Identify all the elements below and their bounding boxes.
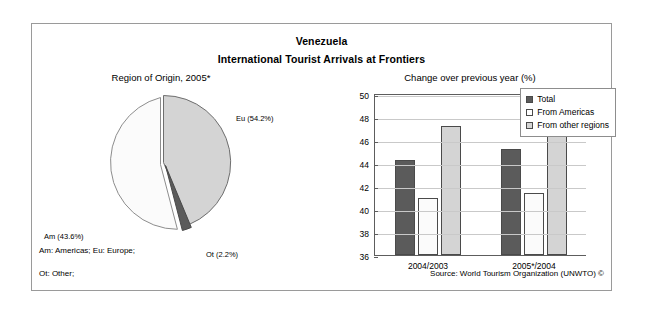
source-note: Source: World Tourism Organization (UNWT…: [430, 269, 604, 278]
bar-from-americas: [418, 198, 438, 256]
pie-chart-panel: Region of Origin, 2005* Eu (54.2%) Am (4…: [36, 72, 326, 262]
y-axis-tick-label: 48: [360, 115, 369, 124]
pie-slice-eu: [164, 95, 231, 224]
y-gridline: [375, 234, 586, 235]
y-gridline: [375, 165, 586, 166]
bar-from-americas: [524, 193, 544, 255]
y-axis-tick: [374, 211, 378, 212]
pie-chart-title: Region of Origin, 2005*: [36, 72, 286, 83]
legend-swatch-from-americas: [526, 109, 533, 116]
y-axis-tick: [374, 188, 378, 189]
figure-title-secondary: International Tourist Arrivals at Fronti…: [32, 53, 611, 65]
pie-label-eu: Eu (54.2%): [236, 114, 274, 123]
pie-svg: [92, 94, 232, 234]
legend-label-from-other-regions: From other regions: [537, 119, 609, 132]
y-axis-tick-label: 44: [360, 161, 369, 170]
bar-from-other-regions: [441, 126, 461, 255]
y-axis-tick-label: 36: [360, 253, 369, 262]
pie-label-ot: Ot (2.2%): [206, 250, 238, 259]
footnote-other: Ot: Other;: [39, 269, 74, 278]
y-gridline: [375, 188, 586, 189]
y-gridline: [375, 211, 586, 212]
legend-swatch-from-other-regions: [526, 122, 533, 129]
figure-title-primary: Venezuela: [32, 35, 611, 47]
y-axis-tick-label: 42: [360, 184, 369, 193]
y-axis-tick: [374, 257, 378, 258]
y-axis-tick: [374, 96, 378, 97]
y-axis-tick-label: 40: [360, 207, 369, 216]
y-axis-tick: [374, 234, 378, 235]
pie-label-am: Am (43.6%): [44, 232, 84, 241]
x-axis-line: [375, 255, 586, 256]
legend-item-from-other-regions: From other regions: [526, 119, 609, 132]
chart-figure-frame: Venezuela International Tourist Arrivals…: [31, 23, 612, 291]
legend-label-total: Total: [537, 93, 555, 106]
legend-item-total: Total: [526, 93, 609, 106]
y-axis-tick-label: 46: [360, 138, 369, 147]
y-axis-tick-label: 50: [360, 92, 369, 101]
bar-chart-title: Change over previous year (%): [350, 72, 590, 83]
legend-item-from-americas: From Americas: [526, 106, 609, 119]
legend-swatch-total: [526, 96, 533, 103]
footnote-regions: Am: Americas; Eu: Europe;: [39, 246, 135, 255]
legend-label-from-americas: From Americas: [537, 106, 594, 119]
y-axis-tick: [374, 119, 378, 120]
y-axis-tick: [374, 165, 378, 166]
y-axis-tick-label: 38: [360, 230, 369, 239]
bar-chart-legend: Total From Americas From other regions: [520, 88, 616, 137]
pie-chart-graphic: [92, 94, 232, 234]
y-axis-tick: [374, 142, 378, 143]
bar-chart-panel: Change over previous year (%) 3638404244…: [324, 72, 612, 272]
y-gridline: [375, 142, 586, 143]
bar-total: [395, 160, 415, 255]
